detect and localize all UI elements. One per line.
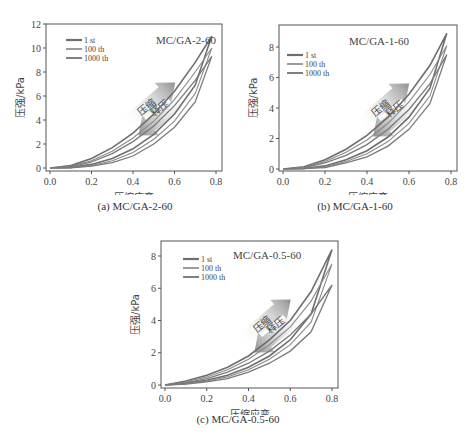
- legend-label: 100 th: [305, 60, 325, 69]
- chart-a-caption: (a) MC/GA-2-60: [0, 200, 270, 212]
- chart-title: MC/GA-1-60: [349, 35, 409, 47]
- y-tick-label: 2: [151, 347, 156, 358]
- y-tick-label: 8: [36, 67, 41, 78]
- chart-panel-a: 压缩释压0.00.20.40.60.8024681012压缩应变压强/kPaMC…: [0, 0, 235, 215]
- y-tick-label: 4: [36, 115, 41, 126]
- x-tick-label: 0.2: [319, 176, 332, 187]
- y-axis-label: 压强/kPa: [248, 78, 259, 119]
- chart-c-group: 压缩释压0.00.20.40.60.802468压缩应变压强/kPaMC/GA-…: [130, 241, 338, 415]
- y-tick-label: 6: [151, 283, 156, 294]
- chart-panel-b: 压缩释压0.00.20.40.60.802468压缩应变压强/kPaMC/GA-…: [235, 0, 470, 215]
- y-tick-label: 10: [31, 43, 41, 54]
- y-tick-label: 4: [269, 103, 274, 114]
- chart-a-group: 压缩释压0.00.20.40.60.8024681012压缩应变压强/kPaMC…: [15, 19, 222, 196]
- y-tick-label: 0: [269, 164, 274, 175]
- chart-a-plot: 压缩释压0.00.20.40.60.8024681012压缩应变压强/kPaMC…: [0, 0, 235, 195]
- x-tick-label: 0.6: [284, 393, 297, 404]
- x-axis-label: 压缩应变: [348, 191, 388, 195]
- chart-b-plot: 压缩释压0.00.20.40.60.802468压缩应变压强/kPaMC/GA-…: [235, 0, 470, 195]
- y-tick-label: 2: [269, 133, 274, 144]
- x-tick-label: 0.0: [44, 176, 57, 187]
- chart-b-caption: (b) MC/GA-1-60: [235, 200, 470, 212]
- x-tick-label: 0.0: [159, 393, 172, 404]
- y-axis-label: 压强/kPa: [15, 77, 26, 118]
- chart-c-plot: 压缩释压0.00.20.40.60.802468压缩应变压强/kPaMC/GA-…: [118, 225, 358, 415]
- x-tick-label: 0.4: [127, 176, 140, 187]
- x-axis-label: 压缩应变: [114, 191, 154, 195]
- x-tick-label: 0.2: [201, 393, 214, 404]
- y-tick-label: 2: [36, 139, 41, 150]
- chart-title: MC/GA-2-60: [156, 34, 216, 46]
- chart-title: MC/GA-0.5-60: [233, 249, 302, 261]
- x-tick-label: 0.2: [85, 176, 98, 187]
- y-axis-label: 压强/kPa: [130, 294, 141, 335]
- x-tick-label: 0.8: [445, 176, 458, 187]
- y-tick-label: 6: [36, 91, 41, 102]
- chart-c-caption: (c) MC/GA-0.5-60: [118, 413, 358, 425]
- y-tick-label: 0: [151, 380, 156, 391]
- y-tick-label: 8: [269, 42, 274, 53]
- x-tick-label: 0.6: [403, 176, 416, 187]
- chart-panel-c: 压缩释压0.00.20.40.60.802468压缩应变压强/kPaMC/GA-…: [118, 225, 358, 435]
- legend-label: 1 st: [201, 255, 213, 264]
- y-tick-label: 6: [269, 72, 274, 83]
- x-tick-label: 0.6: [168, 176, 181, 187]
- y-tick-label: 0: [36, 163, 41, 174]
- legend-label: 100 th: [201, 264, 221, 273]
- y-tick-label: 4: [151, 315, 156, 326]
- x-tick-label: 0.0: [277, 176, 290, 187]
- y-tick-label: 8: [151, 251, 156, 262]
- x-tick-label: 0.4: [242, 393, 255, 404]
- legend-label: 1 st: [305, 51, 317, 60]
- legend-label: 100 th: [84, 45, 104, 54]
- legend-label: 1000 th: [84, 54, 108, 63]
- legend-label: 1 st: [84, 36, 96, 45]
- chart-b-group: 压缩释压0.00.20.40.60.802468压缩应变压强/kPaMC/GA-…: [248, 25, 457, 195]
- x-tick-label: 0.8: [326, 393, 339, 404]
- x-tick-label: 0.4: [361, 176, 374, 187]
- x-tick-label: 0.8: [210, 176, 223, 187]
- legend-label: 1000 th: [201, 273, 225, 282]
- legend-label: 1000 th: [305, 69, 329, 78]
- y-tick-label: 12: [31, 19, 41, 30]
